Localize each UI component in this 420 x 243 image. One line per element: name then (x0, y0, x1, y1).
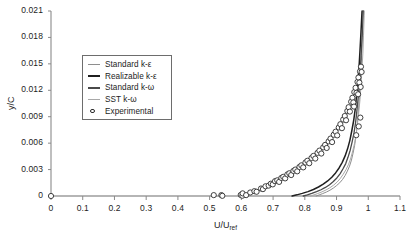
legend-item: Standard k-ε (86, 59, 167, 71)
y-tick-label: 0.009 (0, 111, 43, 121)
open-circle-icon (90, 109, 95, 114)
experimental-data-point (358, 115, 363, 120)
y-tick-label: 0.006 (0, 137, 43, 147)
experimental-data-point (220, 193, 225, 198)
x-axis-title: U/Uref (186, 220, 266, 230)
experimental-data-point (347, 109, 352, 114)
legend-line-icon (88, 87, 100, 89)
x-axis-title-main: U/U (214, 220, 230, 230)
legend-line-swatch-icon (86, 59, 101, 70)
legend-item: Standard k-ω (86, 82, 167, 94)
experimental-data-point (301, 165, 306, 170)
x-tick-marks (51, 196, 400, 200)
experimental-data-point (351, 104, 356, 109)
y-axis-title: y/C (6, 97, 16, 111)
y-tick-label: 0.015 (0, 58, 43, 68)
y-tick-label: 0.018 (0, 31, 43, 41)
y-tick-label: 0.003 (0, 164, 43, 174)
experimental-data-point (339, 126, 344, 131)
experimental-data-point (356, 75, 361, 80)
legend-item-label: Standard k-ω (105, 83, 154, 92)
x-axis-title-subscript: ref (229, 224, 237, 231)
chart-legend: Standard k-εRealizable k-εStandard k-ωSS… (82, 55, 172, 120)
experimental-data-point (48, 193, 53, 198)
y-tick-label: 0.012 (0, 84, 43, 94)
legend-item-label: Experimental (105, 107, 153, 116)
legend-item-label: Realizable k-ε (105, 72, 157, 81)
experimental-data-point (356, 92, 361, 97)
experimental-data-point (353, 85, 358, 90)
experimental-data-point (330, 139, 335, 144)
legend-item: SST k-ω (86, 94, 167, 106)
legend-item-label: SST k-ω (105, 95, 137, 104)
legend-circle-marker-icon (86, 106, 101, 117)
experimental-data-point (324, 145, 329, 150)
experimental-data-point (343, 118, 348, 123)
legend-item: Experimental (86, 105, 167, 117)
legend-line-icon (88, 99, 100, 100)
y-tick-label: 0.021 (0, 5, 43, 15)
experimental-data-point (358, 84, 363, 89)
experimental-data-point (211, 193, 216, 198)
legend-item-label: Standard k-ε (105, 60, 152, 69)
legend-line-icon (88, 75, 100, 77)
y-tick-label: 0 (0, 190, 43, 200)
experimental-data-point (319, 151, 324, 156)
legend-line-swatch-icon (86, 94, 101, 105)
experimental-data-point (313, 156, 318, 161)
chart-figure: 00.0030.0060.0090.0120.0150.0180.021 00.… (0, 0, 420, 243)
legend-line-swatch-icon (86, 82, 101, 93)
legend-item: Realizable k-ε (86, 71, 167, 83)
experimental-data-point (335, 133, 340, 138)
legend-line-icon (88, 64, 100, 65)
x-tick-label: 1.1 (380, 203, 420, 213)
experimental-data-point (307, 161, 312, 166)
experimental-data-point (354, 133, 359, 138)
experimental-data-point (356, 124, 361, 129)
experimental-data-point (358, 64, 363, 69)
experimental-data-point (359, 69, 364, 74)
legend-line-swatch-icon (86, 71, 101, 82)
